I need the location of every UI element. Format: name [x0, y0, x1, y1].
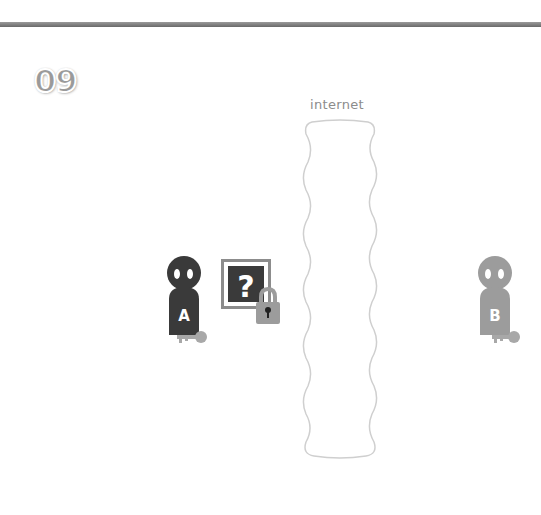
- locked-message-icon: ?: [221, 259, 283, 339]
- person-a-icon: A: [161, 255, 211, 347]
- person-b-icon: B: [472, 255, 532, 347]
- unknown-message-glyph: ?: [237, 269, 254, 304]
- person-b-label: B: [489, 307, 500, 325]
- internet-label: internet: [302, 97, 372, 112]
- top-divider: [0, 22, 541, 27]
- step-number: 09: [34, 62, 77, 100]
- internet-cloud-icon: [300, 118, 380, 460]
- person-a-label: A: [178, 307, 190, 325]
